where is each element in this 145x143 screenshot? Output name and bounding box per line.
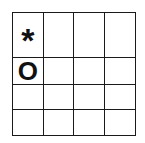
cell-r0-c3[interactable] bbox=[105, 13, 136, 58]
cell-r1-c0[interactable]: O bbox=[13, 58, 44, 85]
cell-r1-c2[interactable] bbox=[74, 58, 105, 85]
cell-r0-c0[interactable]: * bbox=[13, 13, 44, 58]
cell-r2-c2[interactable] bbox=[74, 85, 105, 110]
cell-r3-c3[interactable] bbox=[105, 110, 136, 135]
cell-r2-c3[interactable] bbox=[105, 85, 136, 110]
cell-r2-c0[interactable] bbox=[13, 85, 44, 110]
o-mark: O bbox=[18, 58, 38, 84]
cell-r1-c1[interactable] bbox=[44, 58, 75, 85]
cell-r0-c2[interactable] bbox=[74, 13, 105, 58]
star-mark: * bbox=[21, 23, 34, 57]
cell-r3-c2[interactable] bbox=[74, 110, 105, 135]
cell-r3-c0[interactable] bbox=[13, 110, 44, 135]
cell-r1-c3[interactable] bbox=[105, 58, 136, 85]
cell-r2-c1[interactable] bbox=[44, 85, 75, 110]
game-board: * O bbox=[12, 12, 136, 136]
cell-r3-c1[interactable] bbox=[44, 110, 75, 135]
cell-r0-c1[interactable] bbox=[44, 13, 75, 58]
